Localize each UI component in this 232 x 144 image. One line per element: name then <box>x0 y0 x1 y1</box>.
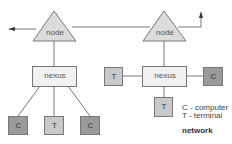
device-left-1-label: C <box>9 122 28 130</box>
device-left-2-label: T <box>45 122 64 130</box>
backbone-line-right <box>178 16 201 27</box>
legend-terminal: T - terminal <box>182 112 222 120</box>
link-left-c1 <box>18 86 40 116</box>
link-left-c2 <box>68 86 90 116</box>
nexus-left-label: nexus <box>33 72 77 80</box>
node-right-label: node <box>150 29 180 37</box>
diagram-title: network <box>182 126 213 135</box>
node-left-label: node <box>40 29 70 37</box>
arrow-up-icon <box>199 11 203 18</box>
device-right-right-label: C <box>204 73 223 81</box>
nexus-right-label: nexus <box>143 72 187 80</box>
arrow-left-icon <box>8 27 15 31</box>
device-right-bottom-label: T <box>155 103 173 111</box>
device-left-3-label: C <box>81 122 100 130</box>
device-right-left-label: T <box>105 73 123 81</box>
